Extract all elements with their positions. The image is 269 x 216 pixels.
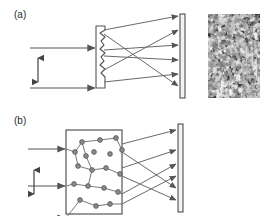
particle — [72, 182, 77, 187]
particle — [86, 184, 91, 189]
scattered-ray — [104, 45, 178, 50]
particle — [78, 198, 83, 203]
scattered-ray — [122, 150, 176, 168]
particle — [102, 186, 107, 191]
scattering-medium-box — [66, 130, 122, 214]
particle — [80, 140, 85, 145]
figure-root: (a) — [0, 0, 269, 216]
scattered-rays-b — [122, 130, 176, 204]
scattered-ray — [122, 176, 176, 200]
particle — [114, 136, 119, 141]
particle — [73, 150, 78, 155]
panel-a: (a) — [0, 0, 269, 108]
scattered-ray — [104, 16, 178, 30]
scattered-ray — [104, 30, 178, 70]
particle — [116, 190, 121, 195]
scattered-rays-a — [104, 16, 178, 86]
particle — [104, 166, 109, 171]
incident-rays-a — [30, 48, 95, 108]
particle — [84, 154, 89, 159]
particle — [108, 202, 113, 207]
fine-speckle-image — [208, 14, 260, 98]
panel-b-diagram — [0, 108, 269, 216]
particle — [120, 148, 125, 153]
scattered-ray — [122, 130, 176, 144]
fine-speckle-canvas — [208, 14, 260, 98]
observation-screen-b — [178, 124, 183, 212]
particle — [118, 172, 123, 177]
particle — [76, 164, 81, 169]
rough-surface-diffuser — [96, 26, 105, 88]
particle — [94, 204, 99, 209]
observation-screen-a — [180, 14, 185, 98]
particle — [108, 152, 113, 157]
particle — [98, 138, 103, 143]
particle — [90, 168, 95, 173]
scattered-ray — [122, 152, 176, 188]
particle — [92, 150, 97, 155]
panel-b: (b) — [0, 108, 269, 216]
